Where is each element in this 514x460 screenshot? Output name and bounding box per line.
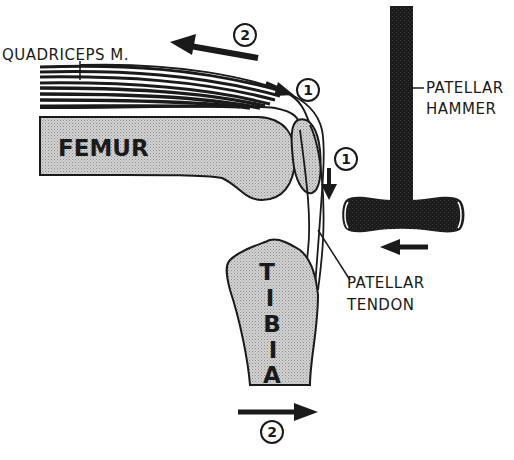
patellar-reflex-diagram: FEMUR T I B I A QUADRICEPS M. PATELLAR H… — [0, 0, 514, 460]
svg-text:A: A — [263, 362, 281, 388]
step-marker-tendon: 1 — [335, 148, 357, 170]
svg-text:2: 2 — [240, 27, 250, 43]
hammer-label-line2: HAMMER — [426, 100, 496, 118]
svg-text:B: B — [263, 311, 281, 337]
svg-text:2: 2 — [267, 424, 277, 440]
svg-text:1: 1 — [341, 151, 351, 167]
patellar-hammer — [342, 6, 464, 232]
svg-text:T: T — [259, 259, 275, 285]
hammer-label-line1: PATELLAR — [426, 79, 504, 97]
step-marker-contraction: 2 — [234, 24, 256, 46]
svg-text:I: I — [266, 285, 275, 311]
svg-text:I: I — [269, 337, 278, 363]
step-marker-kick: 2 — [261, 421, 283, 443]
step-marker-stretch: 1 — [297, 79, 319, 101]
femur-label: FEMUR — [58, 135, 149, 161]
hammer-strike-arrow — [380, 239, 428, 255]
quadriceps-label: QUADRICEPS M. — [2, 46, 129, 64]
tendon-label-line1: PATELLAR — [347, 274, 425, 292]
tibia-kick-arrow — [238, 403, 318, 421]
tendon-label-line2: TENDON — [346, 296, 414, 314]
svg-text:1: 1 — [303, 82, 313, 98]
